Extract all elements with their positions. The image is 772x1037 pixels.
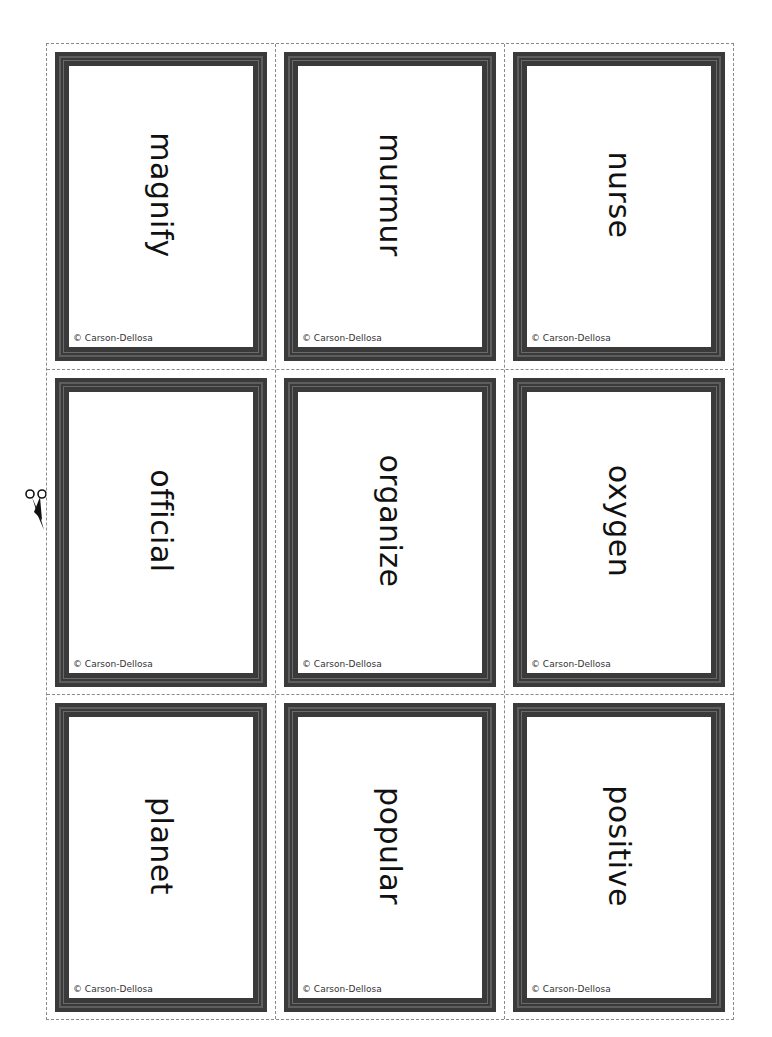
card-frame: oxygen© Carson-Dellosa [513, 378, 725, 687]
card-frame: popular© Carson-Dellosa [284, 703, 496, 1012]
card-word: planet [144, 797, 179, 895]
flashcard: nurse© Carson-Dellosa [505, 44, 733, 369]
card-word: murmur [373, 133, 408, 257]
flashcard: official© Carson-Dellosa [47, 370, 275, 695]
copyright-text: © Carson-Dellosa [531, 333, 611, 343]
flashcard: positive© Carson-Dellosa [505, 695, 733, 1020]
card-frame: organize© Carson-Dellosa [284, 378, 496, 687]
flashcard: popular© Carson-Dellosa [276, 695, 504, 1020]
flashcard: murmur© Carson-Dellosa [276, 44, 504, 369]
card-word: organize [373, 455, 408, 588]
copyright-text: © Carson-Dellosa [302, 333, 382, 343]
copyright-text: © Carson-Dellosa [73, 659, 153, 669]
flashcard: oxygen© Carson-Dellosa [505, 370, 733, 695]
card-frame: positive© Carson-Dellosa [513, 703, 725, 1012]
copyright-text: © Carson-Dellosa [531, 659, 611, 669]
copyright-text: © Carson-Dellosa [302, 984, 382, 994]
card-word: popular [373, 787, 408, 905]
copyright-text: © Carson-Dellosa [73, 984, 153, 994]
flashcard: magnify© Carson-Dellosa [47, 44, 275, 369]
card-word: official [144, 470, 179, 573]
flashcard-sheet: magnify© Carson-Dellosa murmur© Carson-D… [46, 43, 734, 1020]
copyright-text: © Carson-Dellosa [302, 659, 382, 669]
card-word: oxygen [602, 465, 637, 577]
card-frame: magnify© Carson-Dellosa [55, 52, 267, 361]
copyright-text: © Carson-Dellosa [531, 984, 611, 994]
card-frame: planet© Carson-Dellosa [55, 703, 267, 1012]
card-word: nurse [602, 152, 637, 239]
card-word: magnify [144, 133, 179, 258]
flashcard: organize© Carson-Dellosa [276, 370, 504, 695]
flashcard: planet© Carson-Dellosa [47, 695, 275, 1020]
card-frame: murmur© Carson-Dellosa [284, 52, 496, 361]
card-frame: nurse© Carson-Dellosa [513, 52, 725, 361]
card-frame: official© Carson-Dellosa [55, 378, 267, 687]
scissors-icon [24, 486, 48, 534]
card-word: positive [602, 785, 637, 907]
copyright-text: © Carson-Dellosa [73, 333, 153, 343]
